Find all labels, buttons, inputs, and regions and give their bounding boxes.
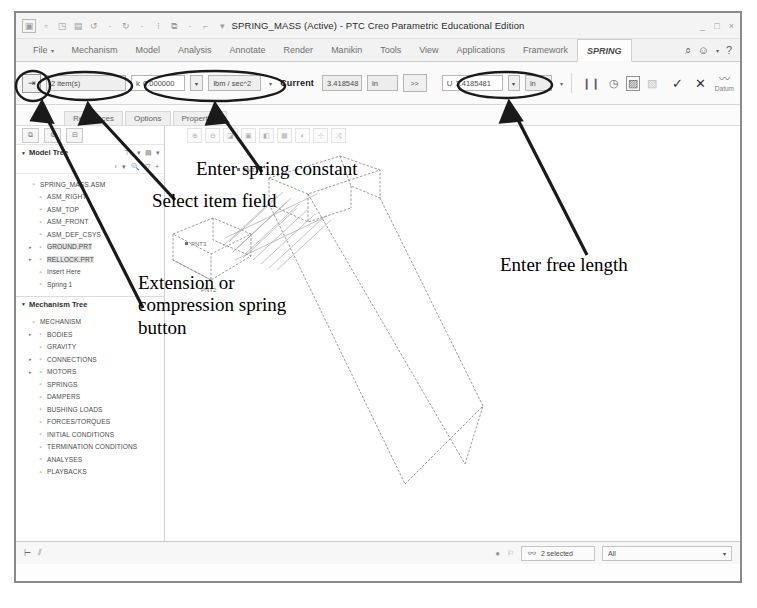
spring-constant-units[interactable]: lbm / sec^2 (208, 75, 261, 91)
help-icon[interactable]: ? (726, 44, 732, 56)
subtab-options[interactable]: Options (125, 111, 171, 125)
undo-caret-icon[interactable]: · (104, 20, 116, 32)
spring-constant-field[interactable]: k 0.000000 (131, 75, 185, 91)
pause-icon[interactable]: ❙❙ (580, 77, 602, 90)
cancel-button[interactable]: ✕ (695, 76, 706, 91)
expand-arrow-icon[interactable]: ▸ (29, 256, 36, 262)
mechanism-tree-item[interactable]: ▫ANALYSES (16, 453, 164, 466)
undo-icon[interactable]: ↺ (88, 20, 100, 32)
tab-view[interactable]: View (410, 39, 447, 61)
subtab-references[interactable]: References (64, 111, 123, 125)
mechanism-tree-item[interactable]: ▫FORCES/TORQUES (16, 416, 164, 429)
regenerate-icon[interactable]: ⁝ (152, 20, 164, 32)
hide-preview-icon[interactable]: ▧ (645, 77, 659, 90)
save-icon[interactable]: ▤ (72, 20, 84, 32)
model-tree-header-icons[interactable]: ⊤↓ ▾ ▤ ▾ (124, 149, 165, 157)
filter-icon[interactable]: ⊤↓ (124, 149, 134, 157)
window-caret-icon[interactable]: · (184, 20, 196, 32)
mechanism-tree-collapse-icon[interactable]: ▼ (21, 301, 26, 307)
free-length-units-caret-icon[interactable]: ▾ (560, 80, 563, 87)
free-length-caret[interactable]: ▾ (508, 75, 520, 91)
expand-arrow-icon[interactable]: ▸ (29, 356, 36, 362)
preview-icon[interactable]: ▨ (626, 76, 640, 91)
navigator-toolbar[interactable]: ⧉ ⚙ ⊟ (16, 126, 164, 145)
refresh-icon[interactable]: ◷ (607, 77, 621, 90)
tree-filter-icon[interactable]: ▽ (145, 163, 150, 171)
customize-caret-icon[interactable]: ▾ (216, 20, 228, 32)
tab-file[interactable]: File▾ (24, 39, 63, 61)
accept-button[interactable]: ✓ (672, 76, 683, 91)
mechanism-tree-item[interactable]: ▫INITIAL CONDITIONS (16, 428, 164, 441)
binoculars-icon[interactable]: 👓 (527, 549, 537, 558)
mechanism-tree-item[interactable]: ▫SPRINGS (16, 378, 164, 391)
extension-compression-spring-button[interactable]: ⇥ (22, 74, 41, 93)
tab-mechanism[interactable]: Mechanism (63, 39, 127, 61)
tab-tools[interactable]: Tools (371, 39, 410, 61)
model-tree-collapse-icon[interactable]: ▼ (21, 150, 26, 156)
mechanism-tree-item[interactable]: ▸▫CONNECTIONS (16, 353, 164, 366)
quick-access-toolbar[interactable]: ▣ ▫ ◳ ▤ ↺ · ↻ · ⁝ ⧉ · ⌐ ▾ (22, 19, 228, 33)
expand-arrow-icon[interactable]: ▸ (29, 331, 36, 337)
mechanism-tree-item[interactable]: ▫PLAYBACKS (16, 466, 164, 479)
tab-applications[interactable]: Applications (448, 39, 515, 61)
ribbon-right-icons[interactable]: ⌕ ☺ ▾ ? (685, 39, 740, 61)
model-tree-item[interactable]: ▫ASM_DEF_CSYS (16, 228, 164, 241)
mechanism-tree-item[interactable]: ▫TERMINATION CONDITIONS (16, 441, 164, 454)
open-icon[interactable]: ◳ (56, 20, 68, 32)
settings-icon[interactable]: ⚙ (44, 128, 61, 143)
redo-icon[interactable]: ↻ (120, 20, 132, 32)
minimize-button[interactable]: _ (700, 21, 705, 31)
expand-panel-button[interactable]: >> (403, 74, 427, 92)
snapshot-icon[interactable]: ⊢ (24, 549, 31, 558)
collapse-icon[interactable]: ⊟ (66, 128, 83, 143)
model-tree-item[interactable]: ▫ASM_TOP (16, 203, 164, 216)
free-length-units[interactable]: in (525, 75, 552, 91)
model-tree-filter-bar[interactable]: ‹ ▾ 🔍 ▽ + (16, 160, 164, 174)
datum-group[interactable]: 〰 Datum (715, 74, 734, 92)
new-icon[interactable]: ▫ (40, 20, 52, 32)
window-icon[interactable]: ⧉ (168, 20, 180, 32)
show-icon[interactable]: ⧉ (22, 128, 39, 143)
model-tree-item[interactable]: ▫ASM_FRONT (16, 216, 164, 229)
select-item-field[interactable]: 2 item(s) (46, 75, 126, 91)
back-icon[interactable]: ‹ (115, 163, 117, 170)
expand-arrow-icon[interactable]: ▸ (29, 369, 36, 375)
model-tree-item[interactable]: ▸▫GROUND.PRT (16, 241, 164, 254)
tree-settings-icon[interactable]: ▤ (145, 149, 152, 157)
model-tree-item[interactable]: ▸▫RELLOCK.PRT (16, 253, 164, 266)
maximize-button[interactable]: □ (714, 21, 719, 31)
chevron-down-icon-2[interactable]: ▾ (156, 149, 160, 157)
mechanism-tree-item[interactable]: ▫DAMPERS (16, 391, 164, 404)
mechanism-tree-item[interactable]: ▸▫MOTORS (16, 366, 164, 379)
tab-manikin[interactable]: Manikin (322, 39, 371, 61)
chevron-down-icon[interactable]: ▾ (137, 149, 141, 157)
free-length-field[interactable]: U 3.4185481 (442, 75, 503, 91)
close-window-icon[interactable]: ⌐ (200, 20, 212, 32)
ribbon-tab-bar[interactable]: File▾ Mechanism Model Analysis Annotate … (16, 39, 740, 62)
model-tree-item[interactable]: ▫SPRING_MASS.ASM (16, 178, 164, 191)
tab-model[interactable]: Model (127, 39, 170, 61)
close-button[interactable]: × (729, 21, 734, 31)
filter-caret-icon[interactable]: ▾ (122, 163, 126, 171)
spring-constant-caret[interactable]: ▾ (190, 75, 203, 91)
chevron-down-icon[interactable]: ▾ (716, 47, 719, 54)
creo-logo-icon[interactable]: ▣ (22, 19, 36, 33)
tab-annotate[interactable]: Annotate (221, 39, 275, 61)
help-balloon-icon[interactable]: ☺ (698, 44, 709, 56)
mechanism-tree-item[interactable]: ▫BUSHING LOADS (16, 403, 164, 416)
tab-analysis[interactable]: Analysis (169, 39, 221, 61)
record-icon[interactable]: ● (495, 549, 500, 558)
flag-icon[interactable]: ⚐ (507, 549, 514, 558)
redo-caret-icon[interactable]: · (136, 20, 148, 32)
tab-spring[interactable]: SPRING (577, 39, 632, 62)
expand-arrow-icon[interactable]: ▸ (29, 244, 36, 250)
tab-render[interactable]: Render (275, 39, 323, 61)
find-icon[interactable]: 🔍 (131, 163, 140, 171)
tab-framework[interactable]: Framework (514, 39, 577, 61)
model-tree-header[interactable]: ▼ Model Tree ⊤↓ ▾ ▤ ▾ (16, 145, 164, 160)
model-tree-item[interactable]: ▫ASM_RIGHT (16, 191, 164, 204)
plus-icon[interactable]: + (155, 163, 159, 170)
search-icon[interactable]: ⌕ (685, 44, 691, 57)
status-filter-icon[interactable]: ⫽ (38, 548, 42, 558)
selection-filter-dropdown[interactable]: All ▾ (602, 546, 732, 561)
